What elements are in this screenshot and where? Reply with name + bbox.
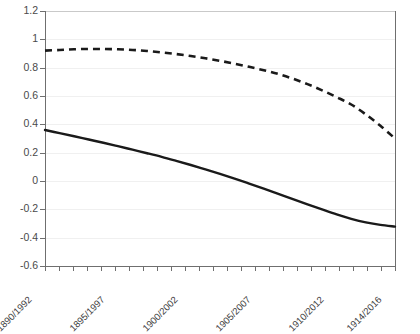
x-tick-mark: [185, 266, 186, 271]
x-tick-mark: [353, 266, 354, 271]
x-tick-mark: [87, 266, 88, 271]
solid-series-line: [45, 130, 395, 227]
x-tick-mark: [227, 266, 228, 271]
x-tick-mark: [311, 266, 312, 271]
x-tick-mark: [143, 266, 144, 271]
x-tick-mark: [199, 266, 200, 271]
x-tick-mark: [45, 266, 46, 271]
y-tick-mark: [40, 124, 45, 125]
x-tick-mark: [269, 266, 270, 271]
x-tick-mark: [381, 266, 382, 271]
x-tick-mark: [213, 266, 214, 271]
dashed-series-line: [45, 49, 395, 139]
y-tick-mark: [40, 153, 45, 154]
y-tick-mark: [40, 209, 45, 210]
x-tick-mark: [297, 266, 298, 271]
x-tick-mark: [283, 266, 284, 271]
y-tick-mark: [40, 68, 45, 69]
x-tick-mark: [339, 266, 340, 271]
x-tick-mark: [395, 266, 396, 271]
x-tick-mark: [241, 266, 242, 271]
x-tick-mark: [129, 266, 130, 271]
x-tick-mark: [73, 266, 74, 271]
y-tick-mark: [40, 39, 45, 40]
x-tick-mark: [59, 266, 60, 271]
y-tick-mark: [40, 238, 45, 239]
y-tick-mark: [40, 11, 45, 12]
x-tick-mark: [101, 266, 102, 271]
y-tick-mark: [40, 181, 45, 182]
x-tick-mark: [255, 266, 256, 271]
y-tick-mark: [40, 96, 45, 97]
x-tick-mark: [157, 266, 158, 271]
x-tick-mark: [115, 266, 116, 271]
x-tick-mark: [171, 266, 172, 271]
x-tick-mark: [367, 266, 368, 271]
x-tick-mark: [325, 266, 326, 271]
